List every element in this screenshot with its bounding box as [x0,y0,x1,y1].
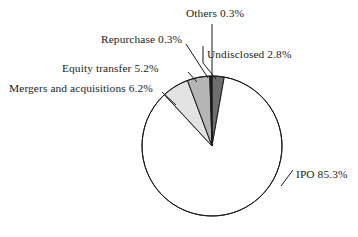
leader-line-ipo [281,170,293,186]
slice-label-equity-transfer: Equity transfer 5.2% [62,62,159,75]
pie-slice-layer [142,76,282,216]
slice-label-repurchase: Repurchase 0.3% [101,33,182,46]
pie-chart: Others 0.3% Repurchase 0.3% Undisclosed … [0,0,358,237]
slice-label-undisclosed: Undisclosed 2.8% [207,48,292,61]
slice-label-others: Others 0.3% [186,7,244,20]
slice-label-ipo: IPO 85.3% [296,168,348,181]
slice-label-mergers-and-acquisitions: Mergers and acquisitions 6.2% [9,82,153,95]
